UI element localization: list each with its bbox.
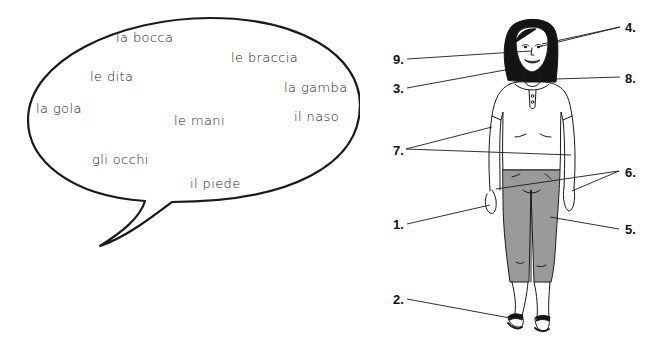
label-8: 8. xyxy=(625,71,636,86)
right-hand xyxy=(563,188,574,211)
label-2: 2. xyxy=(393,292,404,307)
leader-2 xyxy=(407,299,510,318)
label-7: 7. xyxy=(393,143,404,158)
label-6: 6. xyxy=(625,165,636,180)
leader-1 xyxy=(407,205,490,224)
leader-5 xyxy=(550,217,619,229)
label-5: 5. xyxy=(625,222,636,237)
label-1: 1. xyxy=(393,217,404,232)
body-parts-worksheet: la bocca le braccia le dita la gamba la … xyxy=(0,0,658,338)
label-3: 3. xyxy=(393,81,404,96)
left-leg xyxy=(512,282,515,317)
leader-8 xyxy=(556,77,620,79)
leader-7a xyxy=(406,127,492,149)
leader-3 xyxy=(407,70,505,88)
label-9: 9. xyxy=(393,52,404,67)
right-leg xyxy=(534,282,537,318)
left-hand xyxy=(485,190,496,213)
girl-figure xyxy=(0,0,658,338)
label-4: 4. xyxy=(625,20,636,35)
